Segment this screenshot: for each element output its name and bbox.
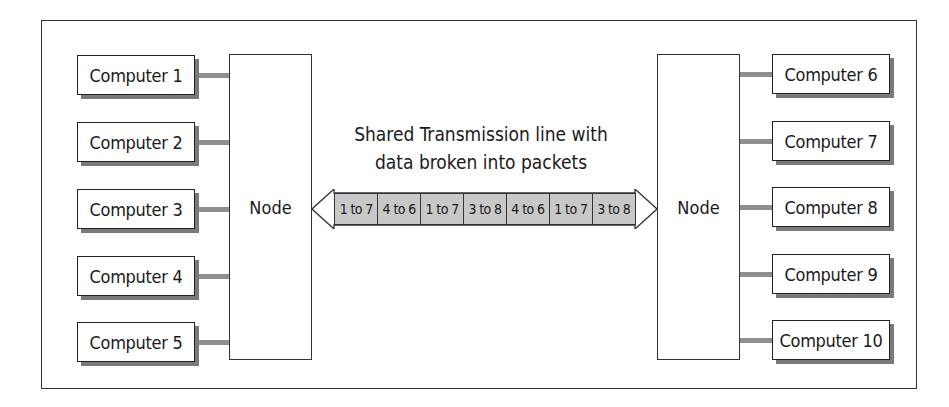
packet: 4 to 6	[377, 193, 421, 225]
packet: 1 to 7	[420, 193, 464, 225]
link-computer-4	[199, 274, 230, 279]
link-computer-3	[199, 207, 230, 212]
link-computer-7	[740, 139, 772, 144]
right-node: Node	[657, 54, 740, 360]
computer-10-box: Computer 10	[772, 320, 890, 360]
shared-transmission-line: 1 to 7 4 to 6 1 to 7 3 to 8 4 to 6 1 to …	[312, 189, 657, 229]
link-computer-6	[740, 72, 772, 77]
computer-3-box: Computer 3	[77, 189, 195, 229]
link-computer-9	[740, 272, 772, 277]
link-computer-8	[740, 205, 772, 210]
link-computer-5	[199, 340, 230, 345]
computer-9-box: Computer 9	[772, 254, 890, 294]
left-node-label: Node	[249, 197, 291, 218]
packet: 1 to 7	[334, 193, 378, 225]
caption-line-2: data broken into packets	[331, 148, 631, 176]
transmission-caption: Shared Transmission line with data broke…	[331, 120, 631, 176]
packet: 1 to 7	[549, 193, 593, 225]
packet: 3 to 8	[463, 193, 507, 225]
packet-band: 1 to 7 4 to 6 1 to 7 3 to 8 4 to 6 1 to …	[334, 193, 636, 225]
link-computer-10	[740, 338, 772, 343]
packet: 4 to 6	[506, 193, 550, 225]
computer-5-box: Computer 5	[77, 322, 195, 362]
link-computer-2	[199, 140, 230, 145]
link-computer-1	[199, 73, 230, 78]
right-node-label: Node	[677, 197, 719, 218]
left-node: Node	[229, 54, 312, 360]
computer-1-box: Computer 1	[77, 55, 195, 95]
computer-4-box: Computer 4	[77, 256, 195, 296]
computer-6-box: Computer 6	[772, 54, 890, 94]
packet: 3 to 8	[592, 193, 636, 225]
computer-8-box: Computer 8	[772, 187, 890, 227]
caption-line-1: Shared Transmission line with	[331, 120, 631, 148]
computer-7-box: Computer 7	[772, 121, 890, 161]
computer-2-box: Computer 2	[77, 122, 195, 162]
